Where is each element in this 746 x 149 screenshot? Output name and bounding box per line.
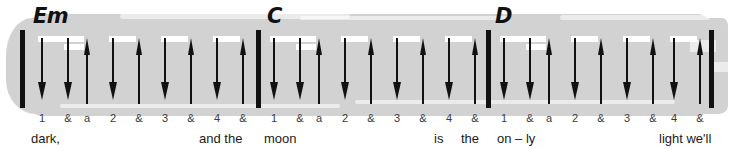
strumming-pattern-sheet: EmCD1&a2&3&4&1&a2&3&4&1&a2&3&4&dark,and … xyxy=(0,0,746,149)
arrow-shaft xyxy=(503,38,505,86)
barline xyxy=(709,30,714,108)
chord-label: D xyxy=(495,6,512,27)
barline xyxy=(20,30,25,108)
lyric-syllable: light we'll xyxy=(659,131,711,146)
arrow-head-down-icon xyxy=(341,82,349,100)
arrow-shaft xyxy=(626,38,628,86)
arrow-head-down-icon xyxy=(526,82,534,100)
beat-count: & xyxy=(60,112,76,124)
arrow-shaft xyxy=(699,50,701,104)
beat-count: 2 xyxy=(105,112,121,124)
lyric-syllable: moon xyxy=(264,131,297,146)
arrow-shaft xyxy=(370,50,372,104)
beat-count: & xyxy=(593,112,609,124)
arrow-head-up-icon xyxy=(598,38,604,55)
arrow-head-up-icon xyxy=(240,38,246,55)
beat-count: & xyxy=(467,112,483,124)
arrow-shaft xyxy=(548,50,550,104)
arrow-head-up-icon xyxy=(546,38,552,55)
lyric-syllable: is xyxy=(434,131,443,146)
beat-count: & xyxy=(692,112,708,124)
beat-count: 4 xyxy=(441,112,457,124)
arrow-head-up-icon xyxy=(84,38,90,55)
arrow-head-up-icon xyxy=(472,38,478,55)
strum-beam xyxy=(270,36,316,42)
arrow-head-up-icon xyxy=(368,38,374,55)
arrow-shaft xyxy=(86,50,88,104)
arrow-shaft xyxy=(600,50,602,104)
arrow-head-down-icon xyxy=(213,82,221,100)
lyric-syllable: on – ly xyxy=(497,131,535,146)
beat-count: & xyxy=(415,112,431,124)
lyric-syllable: and the xyxy=(199,131,242,146)
arrow-head-down-icon xyxy=(393,82,401,100)
beat-count: 4 xyxy=(666,112,682,124)
arrow-head-down-icon xyxy=(623,82,631,100)
beat-count: 3 xyxy=(619,112,635,124)
arrow-shaft xyxy=(190,50,192,104)
arrow-shaft xyxy=(574,38,576,86)
arrow-head-up-icon xyxy=(697,38,703,55)
arrow-head-down-icon xyxy=(38,82,46,100)
beat-count: & xyxy=(522,112,538,124)
arrow-head-down-icon xyxy=(64,82,72,100)
arrow-shaft xyxy=(652,50,654,104)
strum-beam xyxy=(500,36,546,42)
beat-count: 1 xyxy=(34,112,50,124)
chord-label: C xyxy=(267,6,282,27)
beat-count: a xyxy=(311,112,327,124)
arrow-shaft xyxy=(299,38,301,86)
arrow-shaft xyxy=(396,38,398,86)
beat-count: & xyxy=(292,112,308,124)
chord-label: Em xyxy=(33,6,68,27)
beat-count: & xyxy=(235,112,251,124)
lyric-syllable: the xyxy=(461,131,479,146)
arrow-shaft xyxy=(318,50,320,104)
beat-count: 2 xyxy=(567,112,583,124)
arrow-shaft xyxy=(216,38,218,86)
arrow-shaft xyxy=(242,50,244,104)
barline xyxy=(256,30,261,108)
barline xyxy=(486,30,491,108)
arrow-shaft xyxy=(474,50,476,104)
arrow-shaft xyxy=(138,50,140,104)
beat-count: 3 xyxy=(389,112,405,124)
arrow-head-up-icon xyxy=(650,38,656,55)
arrow-shaft xyxy=(529,38,531,86)
arrow-head-down-icon xyxy=(270,82,278,100)
arrow-shaft xyxy=(112,38,114,86)
arrow-head-down-icon xyxy=(161,82,169,100)
arrow-shaft xyxy=(67,38,69,86)
strum-beam xyxy=(38,36,84,42)
lyric-syllable: dark, xyxy=(31,131,60,146)
beat-count: a xyxy=(79,112,95,124)
beat-count: & xyxy=(131,112,147,124)
beat-count: 4 xyxy=(209,112,225,124)
arrow-shaft xyxy=(164,38,166,86)
arrow-shaft xyxy=(448,38,450,86)
arrow-shaft xyxy=(344,38,346,86)
arrow-shaft xyxy=(273,38,275,86)
arrow-shaft xyxy=(422,50,424,104)
arrow-head-down-icon xyxy=(500,82,508,100)
arrow-head-down-icon xyxy=(571,82,579,100)
beat-count: & xyxy=(645,112,661,124)
arrow-shaft xyxy=(41,38,43,86)
arrow-head-down-icon xyxy=(670,82,678,100)
beat-count: & xyxy=(183,112,199,124)
arrow-head-up-icon xyxy=(316,38,322,55)
beat-count: & xyxy=(363,112,379,124)
arrow-head-down-icon xyxy=(445,82,453,100)
arrow-head-down-icon xyxy=(296,82,304,100)
arrow-head-down-icon xyxy=(109,82,117,100)
strumming-staff: EmCD1&a2&3&4&1&a2&3&4&1&a2&3&4&dark,and … xyxy=(0,0,746,149)
arrow-head-up-icon xyxy=(420,38,426,55)
beat-count: 1 xyxy=(496,112,512,124)
arrow-head-up-icon xyxy=(136,38,142,55)
beat-count: a xyxy=(541,112,557,124)
beat-count: 3 xyxy=(157,112,173,124)
beat-count: 2 xyxy=(337,112,353,124)
arrow-head-up-icon xyxy=(188,38,194,55)
beat-count: 1 xyxy=(266,112,282,124)
arrow-shaft xyxy=(673,38,675,86)
